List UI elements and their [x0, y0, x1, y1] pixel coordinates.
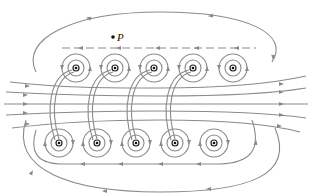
wire-bottom-4: [159, 129, 191, 157]
wire-top-4: [177, 54, 209, 82]
top-dashed-field-line: [62, 46, 256, 50]
bottom-row-wires: [43, 129, 230, 157]
wire-bottom-1: [43, 129, 75, 157]
wire-bottom-3: [120, 129, 152, 157]
wire-bottom-5: [198, 129, 230, 157]
top-row-wires: [60, 54, 249, 82]
wire-top-3: [138, 54, 170, 82]
wire-top-5: [217, 54, 249, 82]
interior-field-lines: [4, 76, 308, 132]
point-p: P: [111, 31, 124, 43]
magnetic-field-diagram: P: [0, 0, 312, 196]
wire-top-2: [99, 54, 131, 82]
point-p-label: P: [116, 31, 124, 43]
wire-bottom-2: [81, 129, 113, 157]
